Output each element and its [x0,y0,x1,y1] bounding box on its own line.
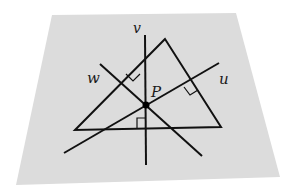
geometry-figure: v u w P [0,0,287,191]
label-p: P [150,83,162,101]
label-w: w [87,69,100,87]
label-v: v [133,20,141,36]
label-u: u [219,70,229,88]
line-v [145,35,146,165]
plane [16,13,280,185]
point-p [143,102,150,109]
